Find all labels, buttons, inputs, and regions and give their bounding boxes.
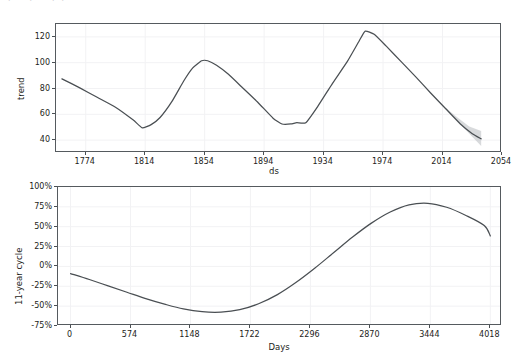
y-tick-label: 40 bbox=[19, 135, 50, 144]
cycle-plot-area bbox=[57, 186, 501, 325]
y-tick-label: 80 bbox=[19, 83, 50, 92]
eleven-year-cycle-panel: 11-year cycle -75%-50%-25%0%25%50%75%100… bbox=[0, 180, 519, 359]
y-tick-mark bbox=[52, 139, 55, 140]
y-tick-label: -25% bbox=[21, 281, 52, 290]
trend-plot-area bbox=[55, 23, 501, 152]
y-tick-mark bbox=[54, 325, 57, 326]
x-tick-label: 574 bbox=[122, 330, 137, 339]
x-tick-mark bbox=[382, 152, 383, 155]
y-tick-label: 50% bbox=[21, 221, 52, 230]
y-tick-label: -50% bbox=[21, 301, 52, 310]
x-tick-mark bbox=[249, 325, 250, 328]
x-tick-label: 2054 bbox=[491, 157, 511, 166]
x-tick-label: 1934 bbox=[312, 157, 332, 166]
trend-panel: trend 406080100120 177418141854189419341… bbox=[0, 0, 519, 180]
y-tick-mark bbox=[54, 226, 57, 227]
x-tick-mark bbox=[323, 152, 324, 155]
x-tick-mark bbox=[263, 152, 264, 155]
y-tick-mark bbox=[52, 36, 55, 37]
forecast-components-figure: ple, pr mp p trend 406080100120 17741814… bbox=[0, 0, 519, 359]
y-tick-mark bbox=[54, 285, 57, 286]
x-tick-label: 1814 bbox=[134, 157, 154, 166]
x-tick-mark bbox=[130, 325, 131, 328]
y-tick-mark bbox=[52, 62, 55, 63]
y-tick-label: 100 bbox=[19, 57, 50, 66]
trend-line-chart bbox=[56, 24, 501, 152]
x-tick-mark bbox=[429, 325, 430, 328]
x-tick-mark bbox=[309, 325, 310, 328]
x-tick-label: 0 bbox=[67, 330, 72, 339]
x-tick-mark bbox=[204, 152, 205, 155]
x-tick-mark bbox=[369, 325, 370, 328]
x-tick-mark bbox=[85, 152, 86, 155]
x-tick-label: 1148 bbox=[179, 330, 199, 339]
x-tick-label: 1974 bbox=[372, 157, 392, 166]
y-tick-label: -75% bbox=[21, 321, 52, 330]
x-tick-mark bbox=[501, 152, 502, 155]
y-tick-mark bbox=[54, 186, 57, 187]
y-tick-mark bbox=[52, 88, 55, 89]
y-tick-label: 75% bbox=[21, 201, 52, 210]
y-tick-mark bbox=[54, 206, 57, 207]
y-tick-mark bbox=[54, 246, 57, 247]
x-tick-label: 2296 bbox=[299, 330, 319, 339]
cycle-line-chart bbox=[58, 187, 501, 325]
y-tick-label: 0% bbox=[21, 261, 52, 270]
x-tick-label: 3444 bbox=[419, 330, 439, 339]
x-tick-mark bbox=[189, 325, 190, 328]
x-tick-label: 1774 bbox=[75, 157, 95, 166]
y-tick-mark bbox=[54, 265, 57, 266]
x-tick-label: 2014 bbox=[431, 157, 451, 166]
trend-x-axis-label: ds bbox=[269, 166, 279, 176]
cycle-x-axis-label: Days bbox=[268, 342, 289, 352]
x-tick-mark bbox=[70, 325, 71, 328]
x-tick-label: 4018 bbox=[479, 330, 499, 339]
x-tick-mark bbox=[442, 152, 443, 155]
x-tick-label: 1854 bbox=[193, 157, 213, 166]
y-tick-label: 100% bbox=[21, 182, 52, 191]
x-tick-label: 1894 bbox=[253, 157, 273, 166]
y-tick-label: 120 bbox=[19, 31, 50, 40]
y-tick-mark bbox=[52, 113, 55, 114]
y-tick-label: 25% bbox=[21, 241, 52, 250]
y-tick-label: 60 bbox=[19, 109, 50, 118]
x-tick-mark bbox=[144, 152, 145, 155]
cycle-y-axis-label: 11-year cycle bbox=[14, 248, 24, 305]
x-tick-mark bbox=[489, 325, 490, 328]
x-tick-label: 2870 bbox=[359, 330, 379, 339]
x-tick-label: 1722 bbox=[239, 330, 259, 339]
y-tick-mark bbox=[54, 305, 57, 306]
